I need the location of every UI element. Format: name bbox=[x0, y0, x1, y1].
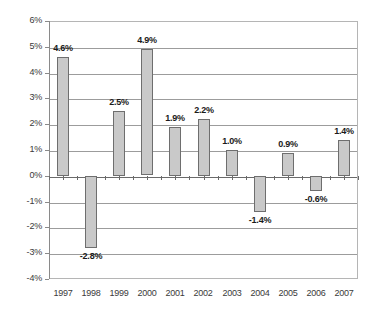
y-axis-line bbox=[49, 21, 50, 279]
y-tick-label: 2% bbox=[20, 118, 42, 128]
x-tick-mark bbox=[204, 176, 205, 180]
y-tick-mark bbox=[45, 150, 49, 151]
y-tick-mark bbox=[45, 98, 49, 99]
bar-2005 bbox=[282, 153, 294, 176]
y-tick-label: 5% bbox=[20, 41, 42, 51]
x-tick-label-1998: 1998 bbox=[77, 288, 105, 298]
x-tick-mark bbox=[175, 176, 176, 180]
y-tick-label: -3% bbox=[20, 247, 42, 257]
x-tick-mark bbox=[161, 176, 162, 180]
x-tick-mark bbox=[133, 176, 134, 180]
x-tick-label-1997: 1997 bbox=[49, 288, 77, 298]
y-tick-mark bbox=[45, 124, 49, 125]
y-tick-mark bbox=[45, 202, 49, 203]
x-tick-label-2001: 2001 bbox=[161, 288, 189, 298]
x-tick-label-2002: 2002 bbox=[189, 288, 217, 298]
x-tick-mark bbox=[358, 176, 359, 180]
bar-label-2006: -0.6% bbox=[294, 194, 338, 204]
x-tick-mark bbox=[105, 176, 106, 180]
bar-2003 bbox=[226, 150, 238, 176]
y-tick-mark bbox=[45, 227, 49, 228]
bar-1998 bbox=[85, 176, 97, 248]
y-tick-label: 4% bbox=[20, 67, 42, 77]
x-tick-label-2006: 2006 bbox=[302, 288, 330, 298]
y-tick-label: -1% bbox=[20, 196, 42, 206]
x-tick-mark bbox=[246, 176, 247, 180]
gridline bbox=[50, 48, 357, 49]
bar-1999 bbox=[113, 111, 125, 176]
y-tick-label: -2% bbox=[20, 221, 42, 231]
x-tick-label-2005: 2005 bbox=[274, 288, 302, 298]
y-tick-mark bbox=[45, 253, 49, 254]
y-tick-label: 3% bbox=[20, 92, 42, 102]
bar-label-1998: -2.8% bbox=[69, 251, 113, 261]
bar-2002 bbox=[198, 119, 210, 176]
bar-1997 bbox=[57, 57, 69, 176]
bar-2000 bbox=[141, 49, 153, 175]
bar-label-2002: 2.2% bbox=[182, 105, 226, 115]
bar-2001 bbox=[169, 127, 181, 176]
bar-label-2004: -1.4% bbox=[238, 215, 282, 225]
x-tick-mark bbox=[330, 176, 331, 180]
y-tick-label: 0% bbox=[20, 170, 42, 180]
bar-chart: 6%5%4%3%2%1%0%-1%-2%-3%-4% 4.6%-2.8%2.5%… bbox=[0, 0, 379, 318]
y-tick-label: 1% bbox=[20, 144, 42, 154]
x-tick-mark bbox=[119, 176, 120, 180]
x-tick-mark bbox=[147, 176, 148, 180]
bar-label-2005: 0.9% bbox=[266, 139, 310, 149]
y-tick-mark bbox=[45, 21, 49, 22]
x-tick-label-1999: 1999 bbox=[105, 288, 133, 298]
x-tick-mark bbox=[288, 176, 289, 180]
gridline bbox=[50, 74, 357, 75]
x-tick-mark bbox=[274, 176, 275, 180]
x-tick-mark bbox=[189, 176, 190, 180]
x-tick-mark bbox=[302, 176, 303, 180]
bar-label-2007: 1.4% bbox=[322, 126, 366, 136]
y-tick-mark bbox=[45, 279, 49, 280]
x-tick-mark bbox=[63, 176, 64, 180]
y-tick-label: -4% bbox=[20, 273, 42, 283]
bar-2006 bbox=[310, 176, 322, 191]
x-tick-label-2004: 2004 bbox=[246, 288, 274, 298]
x-tick-mark bbox=[218, 176, 219, 180]
x-tick-label-2003: 2003 bbox=[218, 288, 246, 298]
x-tick-label-2000: 2000 bbox=[133, 288, 161, 298]
bar-label-2003: 1.0% bbox=[210, 136, 254, 146]
bar-2007 bbox=[338, 140, 350, 176]
x-tick-mark bbox=[77, 176, 78, 180]
y-tick-mark bbox=[45, 73, 49, 74]
bar-2004 bbox=[254, 176, 266, 212]
x-tick-mark bbox=[49, 176, 50, 180]
y-tick-label: 6% bbox=[20, 15, 42, 25]
x-tick-label-2007: 2007 bbox=[330, 288, 358, 298]
x-tick-mark bbox=[344, 176, 345, 180]
x-tick-mark bbox=[232, 176, 233, 180]
bar-label-2000: 4.9% bbox=[125, 35, 169, 45]
bar-label-1999: 2.5% bbox=[97, 97, 141, 107]
bar-label-1997: 4.6% bbox=[41, 43, 85, 53]
